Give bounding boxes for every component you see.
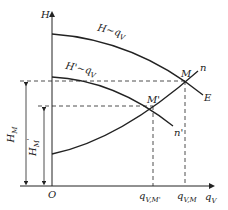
system-curve-n xyxy=(52,71,198,154)
y-axis-label: H xyxy=(41,10,50,20)
curve-end-label-n: n xyxy=(200,63,206,73)
curve-end-label-e: E xyxy=(204,93,211,103)
origin-label: O xyxy=(48,190,56,200)
pump-curve-diagram: H O qV H~qV H'~qV M M' n E n' HM HM' qV,… xyxy=(0,0,228,210)
x-axis-label: qV xyxy=(205,192,216,205)
dimension-label-h-m-prime: HM' xyxy=(27,138,41,156)
curve-end-label-n-prime: n' xyxy=(174,128,183,138)
point-label-m-prime: M' xyxy=(147,95,160,105)
x-tick-q-v-m-prime: qV,M' xyxy=(139,191,161,204)
point-label-m: M xyxy=(181,69,191,79)
x-tick-q-v-m: qV,M xyxy=(177,191,197,204)
dimension-label-h-m: HM xyxy=(6,127,19,143)
